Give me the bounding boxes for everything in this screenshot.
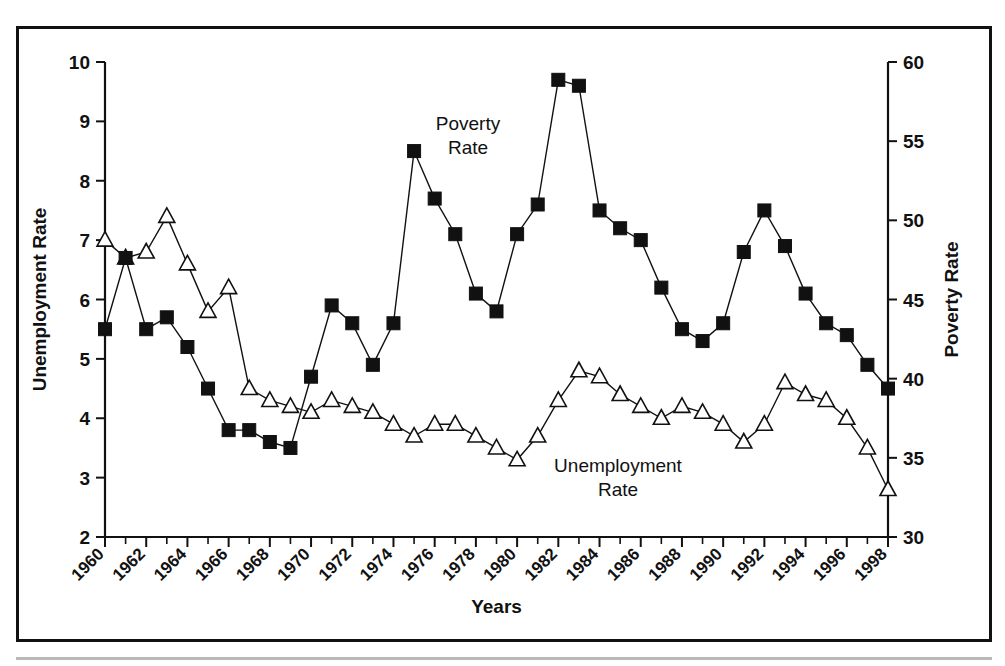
data-point-marker xyxy=(181,341,194,354)
data-point-marker xyxy=(531,198,544,211)
y2-axis-tick-label: 55 xyxy=(903,131,925,152)
x-axis-tick-label: 1974 xyxy=(356,544,397,585)
y2-axis-tick-label: 45 xyxy=(903,290,925,311)
data-point-marker xyxy=(653,410,669,425)
data-point-marker xyxy=(736,434,752,449)
data-point-marker xyxy=(221,279,237,294)
y-axis-title: Unemployment Rate xyxy=(29,208,50,392)
data-point-marker xyxy=(715,416,731,431)
data-point-marker xyxy=(447,416,463,431)
y2-axis-tick-label: 30 xyxy=(903,527,924,548)
data-point-marker xyxy=(612,386,628,401)
x-axis-tick-label: 1998 xyxy=(851,544,891,584)
data-point-marker xyxy=(550,392,566,407)
data-point-marker xyxy=(696,335,709,348)
data-point-marker xyxy=(449,228,462,241)
data-point-marker xyxy=(571,362,587,377)
data-point-marker xyxy=(490,305,503,318)
x-axis-tick-label: 1984 xyxy=(562,544,603,585)
data-point-marker xyxy=(820,317,833,330)
data-point-marker xyxy=(324,392,340,407)
data-point-marker xyxy=(346,317,359,330)
data-point-marker xyxy=(756,416,772,431)
data-point-marker xyxy=(777,374,793,389)
x-axis-tick-label: 1960 xyxy=(68,544,108,584)
data-point-marker xyxy=(737,246,750,259)
data-point-marker xyxy=(717,317,730,330)
data-point-marker xyxy=(674,398,690,413)
data-point-marker xyxy=(119,251,132,264)
data-point-marker xyxy=(138,244,154,259)
data-point-marker xyxy=(489,439,505,454)
y-axis-tick-label: 4 xyxy=(79,408,90,429)
series-line xyxy=(105,80,888,448)
data-point-marker xyxy=(798,386,814,401)
poverty-rate-annotation: Poverty xyxy=(436,113,501,134)
data-point-marker xyxy=(202,382,215,395)
x-axis-tick-label: 1980 xyxy=(480,544,520,584)
data-point-marker xyxy=(778,240,791,253)
x-axis-tick-label: 1986 xyxy=(603,544,643,584)
data-point-marker xyxy=(408,145,421,158)
x-axis-tick-label: 1970 xyxy=(274,544,314,584)
y-axis-tick-label: 5 xyxy=(79,349,90,370)
y-axis-tick-label: 2 xyxy=(79,527,90,548)
data-point-marker xyxy=(243,424,256,437)
data-point-marker xyxy=(839,410,855,425)
data-point-marker xyxy=(530,428,546,443)
y-axis-tick-label: 7 xyxy=(79,230,90,251)
data-point-marker xyxy=(840,329,853,342)
x-axis-tick-label: 1996 xyxy=(809,544,849,584)
data-point-marker xyxy=(366,358,379,371)
x-axis-tick-label: 1982 xyxy=(521,544,561,584)
unemployment-rate-annotation: Unemployment xyxy=(554,455,682,476)
data-point-marker xyxy=(758,204,771,217)
data-point-marker xyxy=(675,323,688,336)
data-point-marker xyxy=(427,416,443,431)
data-point-marker xyxy=(140,323,153,336)
data-point-marker xyxy=(284,441,297,454)
x-axis-tick-label: 1976 xyxy=(397,544,437,584)
y-axis-tick-label: 8 xyxy=(79,171,90,192)
x-axis-tick-label: 1966 xyxy=(191,544,231,584)
figure-root: 2345678910303540455055601960196219641966… xyxy=(0,0,1005,666)
data-point-marker xyxy=(469,287,482,300)
unemployment-rate-annotation-line2: Rate xyxy=(598,479,638,500)
x-axis-tick-label: 1978 xyxy=(439,544,479,584)
data-point-marker xyxy=(861,358,874,371)
y2-axis-title: Poverty Rate xyxy=(941,241,962,357)
data-point-marker xyxy=(160,311,173,324)
data-point-marker xyxy=(263,436,276,449)
data-point-marker xyxy=(305,370,318,383)
y-axis-tick-label: 10 xyxy=(69,52,90,73)
data-point-marker xyxy=(325,299,338,312)
data-point-marker xyxy=(179,255,195,270)
data-point-marker xyxy=(572,79,585,92)
x-axis-tick-label: 1994 xyxy=(768,544,809,585)
data-point-marker xyxy=(99,323,112,336)
data-point-marker xyxy=(387,317,400,330)
data-point-marker xyxy=(880,481,896,496)
x-axis-title: Years xyxy=(471,596,522,617)
data-point-marker xyxy=(222,424,235,437)
data-point-marker xyxy=(593,204,606,217)
y2-axis-tick-label: 40 xyxy=(903,369,924,390)
labels-layer: 2345678910303540455055601960196219641966… xyxy=(29,52,962,617)
y2-axis-tick-label: 60 xyxy=(903,52,924,73)
data-point-marker xyxy=(428,192,441,205)
data-point-marker xyxy=(241,380,257,395)
data-point-marker xyxy=(799,287,812,300)
data-point-marker xyxy=(882,382,895,395)
y-axis-tick-label: 9 xyxy=(79,111,90,132)
data-point-marker xyxy=(511,228,524,241)
data-point-marker xyxy=(614,222,627,235)
x-axis-tick-label: 1992 xyxy=(727,544,767,584)
x-axis-tick-label: 1962 xyxy=(109,544,149,584)
data-point-marker xyxy=(655,281,668,294)
y2-axis-tick-label: 35 xyxy=(903,448,925,469)
series-layer xyxy=(97,73,896,495)
y2-axis-tick-label: 50 xyxy=(903,210,924,231)
x-axis-tick-label: 1968 xyxy=(232,544,272,584)
data-point-marker xyxy=(468,428,484,443)
data-point-marker xyxy=(406,428,422,443)
